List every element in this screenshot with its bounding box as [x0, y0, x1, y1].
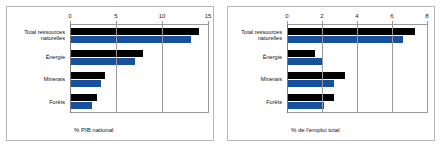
x-tick-label: 0: [68, 12, 71, 20]
category-label: Énergie: [227, 46, 285, 68]
bar-group: [70, 91, 208, 113]
x-tick-mark: [116, 21, 117, 24]
bar-group: [70, 69, 208, 91]
category-labels-left: Total ressourcesnaturellesÉnergieMinerai…: [6, 24, 68, 113]
bar-dark: [70, 50, 143, 57]
bar-dark: [287, 94, 334, 101]
category-label: Total ressourcesnaturelles: [227, 24, 285, 46]
category-label-text: Forêts: [49, 99, 65, 106]
x-tick-mark: [322, 21, 323, 24]
chart-panel-right: 02468 Total ressourcesnaturellesÉnergieM…: [221, 0, 442, 148]
bar-dark: [70, 72, 105, 79]
category-label-text: Énergie: [263, 54, 282, 61]
gridline: [116, 24, 117, 113]
x-tick-label: 4: [355, 12, 358, 20]
bar-blue: [287, 80, 334, 87]
x-axis-title-right: % de l'emploi total: [291, 127, 340, 133]
category-label-text: Total ressourcesnaturelles: [241, 29, 282, 42]
bar-dark: [70, 94, 97, 101]
x-tick-mark: [427, 21, 428, 24]
category-label: Minerais: [227, 69, 285, 91]
figure-container: 051015 Total ressourcesnaturellesÉnergie…: [0, 0, 443, 148]
x-tick-label: 5: [114, 12, 117, 20]
x-tick-label: 8: [425, 12, 428, 20]
category-label: Énergie: [6, 46, 68, 68]
x-tick-mark: [162, 21, 163, 24]
category-label-text: Énergie: [46, 54, 65, 61]
category-label-text: Minerais: [44, 76, 65, 83]
category-label: Minerais: [6, 69, 68, 91]
x-tick-label: 6: [390, 12, 393, 20]
plot-area-left: 051015 Total ressourcesnaturellesÉnergie…: [6, 6, 214, 141]
category-label: Forêts: [6, 91, 68, 113]
gridline: [162, 24, 163, 113]
x-tick-mark: [392, 21, 393, 24]
category-label-text: Total ressourcesnaturelles: [24, 29, 65, 42]
x-tick-label: 15: [205, 12, 212, 20]
bar-group: [70, 24, 208, 46]
gridline: [427, 24, 428, 113]
x-tick-label: 0: [285, 12, 288, 20]
x-axis-title-left: % PIB national: [74, 127, 113, 133]
gridline: [322, 24, 323, 113]
bar-blue: [70, 58, 135, 65]
bar-blue: [287, 36, 403, 43]
bars-region-left: [70, 24, 208, 113]
bar-blue: [287, 58, 322, 65]
x-axis-tick-labels-right: 02468: [227, 12, 435, 24]
chart-panel-left: 051015 Total ressourcesnaturellesÉnergie…: [0, 0, 221, 148]
bar-dark: [287, 72, 345, 79]
bars-region-right: [287, 24, 427, 113]
category-labels-right: Total ressourcesnaturellesÉnergieMinerai…: [227, 24, 285, 113]
x-axis-tick-labels-left: 051015: [6, 12, 214, 24]
bar-blue: [70, 102, 92, 109]
bar-blue: [70, 80, 101, 87]
x-tick-mark: [287, 21, 288, 24]
gridline: [357, 24, 358, 113]
x-tick-label: 2: [320, 12, 323, 20]
gridline: [208, 24, 209, 113]
category-label: Forêts: [227, 91, 285, 113]
gridline: [70, 24, 71, 113]
bar-blue: [287, 102, 324, 109]
bar-blue: [70, 36, 191, 43]
x-tick-mark: [357, 21, 358, 24]
gridline: [287, 24, 288, 113]
category-label-text: Forêts: [266, 99, 282, 106]
x-tick-mark: [208, 21, 209, 24]
x-tick-label: 10: [159, 12, 166, 20]
plot-area-right: 02468 Total ressourcesnaturellesÉnergieM…: [227, 6, 435, 141]
bar-dark: [287, 50, 315, 57]
bar-groups-left: [70, 24, 208, 113]
category-label-text: Minerais: [261, 76, 282, 83]
category-label: Total ressourcesnaturelles: [6, 24, 68, 46]
x-tick-mark: [70, 21, 71, 24]
gridline: [392, 24, 393, 113]
bar-group: [70, 46, 208, 68]
bar-dark: [287, 28, 415, 35]
bar-dark: [70, 28, 199, 35]
